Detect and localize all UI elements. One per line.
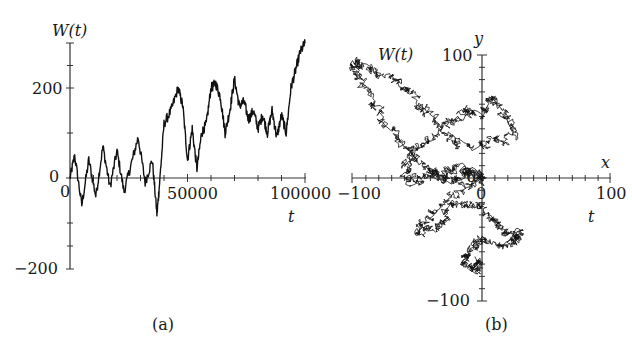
panel-b-y-tick-neg100: −100 <box>426 291 470 310</box>
panel-b-origin-label: 0 <box>466 167 476 186</box>
panel-a: W(t) 200 0 0 −200 50000 100000 t (a) <box>14 21 331 334</box>
panel-a-x-tick-50000: 50000 <box>167 184 218 203</box>
panel-a-caption: (a) <box>152 315 174 334</box>
panel-a-y-label: W(t) <box>52 21 87 40</box>
panel-b-x-tick-0: 0 <box>476 184 486 203</box>
panel-b-x-tick-100: 100 <box>596 184 627 203</box>
panel-a-y-tick-200: 200 <box>32 79 63 98</box>
panel-b-random-walk-trace <box>349 57 523 274</box>
panel-a-y-tick-0: 0 <box>49 167 59 186</box>
figure: W(t) 200 0 0 −200 50000 100000 t (a) y 1… <box>0 0 632 346</box>
panel-b: y 100 W(t) x 0 −100 0 100 t −100 (b) <box>337 29 627 334</box>
panel-a-x-tick-100000: 100000 <box>270 184 331 203</box>
panel-b-y-label: y <box>473 29 484 48</box>
panel-b-x-label: x <box>601 153 610 172</box>
panel-b-caption: (b) <box>485 315 508 334</box>
panel-b-x-tick-neg100: −100 <box>337 184 381 203</box>
panel-b-series-label: W(t) <box>378 45 413 64</box>
panel-a-x-tick-0: 0 <box>60 182 70 201</box>
panel-a-x-label: t <box>288 207 295 226</box>
panel-b-t-label: t <box>588 207 595 226</box>
panel-a-y-tick-neg200: −200 <box>14 259 58 278</box>
panel-b-y-tick-100: 100 <box>442 46 473 65</box>
